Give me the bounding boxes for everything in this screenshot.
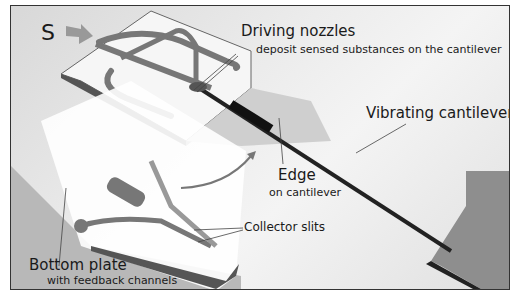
collector-slits-label: Collector slits	[244, 220, 325, 234]
edge-label: Edge	[278, 166, 316, 184]
bottom-plate-sublabel: with feedback channels	[47, 274, 177, 287]
bottom-plate-label: Bottom plate	[29, 256, 127, 274]
edge-sublabel: on cantilever	[269, 186, 341, 199]
driving-nozzles-label: Driving nozzles	[241, 22, 355, 40]
vibrating-cantilever-label: Vibrating cantilever	[366, 104, 510, 122]
diagram-frame: S Driving nozzles deposit sensed substan…	[10, 5, 510, 290]
s-marker-label: S	[41, 20, 55, 45]
driving-nozzles-sublabel: deposit sensed substances on the cantile…	[256, 43, 502, 56]
